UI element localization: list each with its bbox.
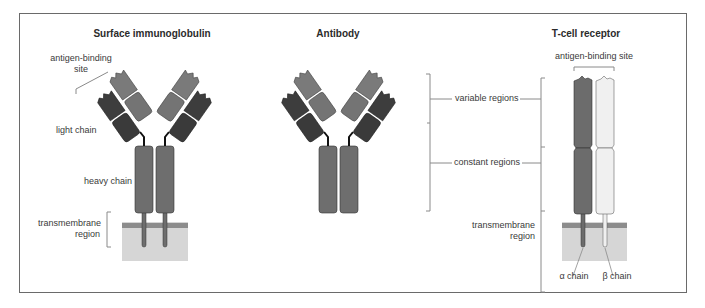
tcr-transmembrane-label-1: transmembrane bbox=[470, 220, 535, 231]
alpha-chain-label: α chain bbox=[559, 271, 588, 282]
tcr-title: T-cell receptor bbox=[552, 28, 620, 39]
alpha-chain bbox=[574, 76, 592, 214]
surface-ig-title: Surface immunoglobulin bbox=[93, 28, 210, 39]
tcr-transmembrane-label-2: region bbox=[470, 231, 535, 242]
membrane-band bbox=[122, 223, 188, 228]
variable-regions-label: variable regions bbox=[455, 93, 519, 104]
heavy-chain-label: heavy chain bbox=[84, 176, 132, 187]
surface-ig-antigen-binding-label-1: antigen-binding bbox=[50, 53, 112, 64]
antibody-fab-arm-left bbox=[274, 68, 343, 143]
fab-arm-right bbox=[150, 68, 219, 143]
light-chain-label: light chain bbox=[56, 125, 97, 136]
heavy-chain-right bbox=[156, 146, 174, 213]
antibody-molecule bbox=[274, 68, 404, 213]
fab-arm-left bbox=[90, 68, 159, 143]
tcr-membrane-band bbox=[562, 223, 627, 228]
antibody-heavy-chain-left bbox=[319, 146, 337, 213]
surface-ig-transmembrane-label-1: transmembrane bbox=[38, 218, 100, 229]
constant-regions-label: constant regions bbox=[454, 157, 520, 168]
region-brackets bbox=[426, 74, 545, 292]
surface-ig-molecule bbox=[90, 68, 220, 261]
heavy-chain-left bbox=[135, 146, 153, 213]
surface-ig-antigen-binding-label-2: site bbox=[74, 64, 88, 75]
antibody-heavy-chain-right bbox=[340, 146, 358, 213]
tcr-molecule bbox=[562, 67, 627, 276]
beta-chain-label: β chain bbox=[602, 271, 631, 282]
antibody-title: Antibody bbox=[316, 28, 359, 39]
antibody-fab-arm-right bbox=[334, 68, 403, 143]
tcr-antigen-binding-label: antigen-binding site bbox=[555, 51, 633, 62]
diagram-canvas bbox=[0, 0, 705, 308]
beta-chain bbox=[596, 76, 614, 214]
surface-ig-transmembrane-label-2: region bbox=[38, 229, 100, 240]
